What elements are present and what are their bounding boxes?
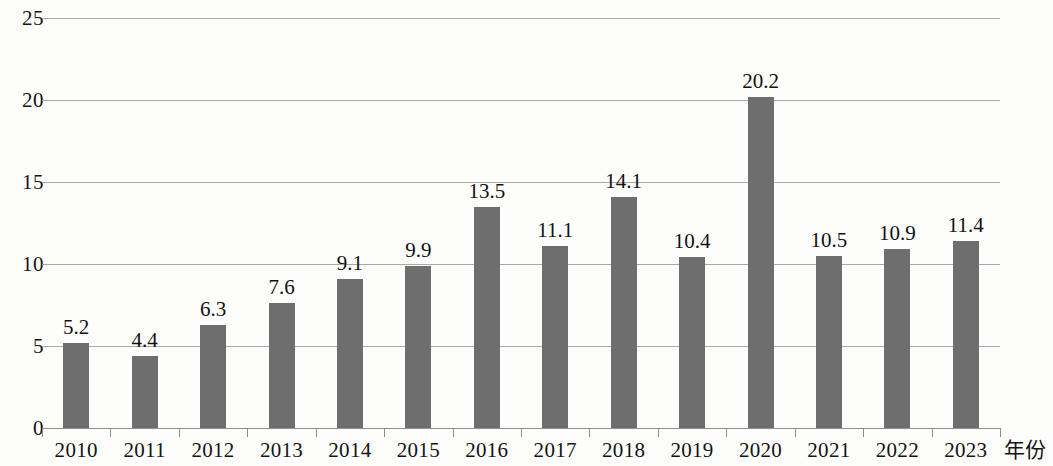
x-axis-tick-mark: [726, 428, 727, 437]
x-axis-tick-mark: [42, 428, 43, 437]
bar: [611, 197, 637, 428]
gridline: [42, 264, 1000, 265]
y-axis-tick-label: 10: [0, 254, 44, 275]
bar-value-label: 7.6: [242, 277, 322, 298]
bar-value-label: 4.4: [105, 330, 185, 351]
y-axis-tick-label: 20: [0, 90, 44, 111]
bar: [200, 325, 226, 428]
x-axis-tick-mark: [658, 428, 659, 437]
bar: [748, 97, 774, 428]
x-axis-tick-mark: [316, 428, 317, 437]
x-axis-tick-mark: [453, 428, 454, 437]
bar: [542, 246, 568, 428]
bar-value-label: 9.9: [378, 240, 458, 261]
bar: [337, 279, 363, 428]
bar: [816, 256, 842, 428]
bar: [884, 249, 910, 428]
x-axis-category-label: 2023: [926, 440, 1006, 461]
x-axis-tick-mark: [932, 428, 933, 437]
bar-value-label: 14.1: [584, 171, 664, 192]
y-axis-tick-label: 5: [0, 336, 44, 357]
x-axis-title: 年份: [1004, 440, 1046, 461]
bar: [405, 266, 431, 428]
plot-area: 5.24.46.37.69.19.913.511.114.110.420.210…: [42, 18, 1000, 428]
bar: [474, 207, 500, 428]
bar: [132, 356, 158, 428]
y-axis-tick-label: 15: [0, 172, 44, 193]
bar: [269, 303, 295, 428]
gridline: [42, 100, 1000, 101]
gridline: [42, 346, 1000, 347]
y-axis-tick-label: 25: [0, 8, 44, 29]
x-axis-tick-mark: [1000, 428, 1001, 437]
bar-value-label: 13.5: [447, 181, 527, 202]
bar: [679, 257, 705, 428]
x-axis-tick-mark: [589, 428, 590, 437]
x-axis-tick-mark: [179, 428, 180, 437]
bar-value-label: 6.3: [173, 299, 253, 320]
x-axis-tick-mark: [521, 428, 522, 437]
bar-value-label: 10.4: [652, 231, 732, 252]
y-axis-tick-label: 0: [0, 418, 44, 439]
x-axis-tick-mark: [795, 428, 796, 437]
bar-value-label: 11.4: [926, 215, 1006, 236]
bar-value-label: 11.1: [515, 220, 595, 241]
axis-baseline: [42, 428, 1000, 429]
x-axis-tick-mark: [247, 428, 248, 437]
x-axis-tick-mark: [110, 428, 111, 437]
bar-value-label: 20.2: [721, 71, 801, 92]
x-axis-tick-mark: [384, 428, 385, 437]
bar-chart: 0510152025 5.24.46.37.69.19.913.511.114.…: [0, 0, 1053, 466]
bar: [63, 343, 89, 428]
gridline: [42, 18, 1000, 19]
bar: [953, 241, 979, 428]
x-axis-tick-mark: [863, 428, 864, 437]
